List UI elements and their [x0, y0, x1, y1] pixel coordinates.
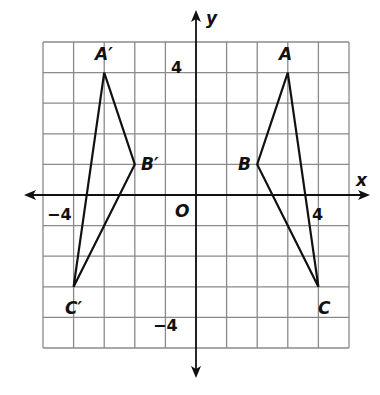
y-axis-label: y [206, 8, 218, 28]
x-tick-label-pos: 4 [312, 205, 323, 224]
vertex-label-b: B [238, 154, 251, 174]
vertex-label-b-prime: B′ [141, 154, 159, 174]
vertex-label-c-prime: C′ [65, 298, 82, 318]
vertex-label-c: C [318, 298, 331, 318]
vertex-label-a: A [277, 44, 292, 64]
coordinate-plane: x y O 4 −4 4 −4 A B C A′ B′ C′ [0, 0, 380, 395]
labels: x y O 4 −4 4 −4 A B C A′ B′ C′ [47, 8, 368, 335]
y-tick-label-pos: 4 [171, 58, 182, 77]
x-tick-label-neg: −4 [47, 205, 72, 224]
vertex-label-a-prime: A′ [93, 44, 113, 64]
x-axis-label: x [355, 170, 368, 190]
y-tick-label-neg: −4 [153, 316, 178, 335]
origin-label: O [175, 201, 189, 221]
